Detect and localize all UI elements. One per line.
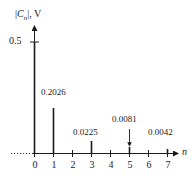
x-tick-label-1: 1 (48, 160, 60, 170)
x-tick-label-7: 7 (162, 160, 174, 170)
spectrum-figure: |Cn|, V 0.5 0 1 2 3 4 5 6 7 n 0.2026 0.0… (0, 0, 196, 178)
x-tick-label-6: 6 (143, 160, 155, 170)
x-tick-label-5: 5 (124, 160, 136, 170)
x-tick-label-3: 3 (86, 160, 98, 170)
value-label-n3: 0.0225 (73, 128, 98, 137)
y-axis-title-units: , V (29, 8, 41, 19)
value-label-n7: 0.0042 (148, 128, 173, 137)
y-axis-title: |Cn|, V (15, 9, 41, 22)
x-tick-label-2: 2 (67, 160, 79, 170)
x-tick-label-0: 0 (29, 160, 41, 170)
y-tick-label-0: 0.5 (9, 36, 22, 46)
value-label-n1: 0.2026 (41, 88, 66, 97)
x-axis-title: n (182, 147, 187, 157)
y-axis-title-symbol: C (17, 8, 24, 19)
x-tick-label-4: 4 (105, 160, 117, 170)
value-label-n5: 0.0081 (112, 115, 137, 124)
plot-canvas (0, 0, 196, 178)
